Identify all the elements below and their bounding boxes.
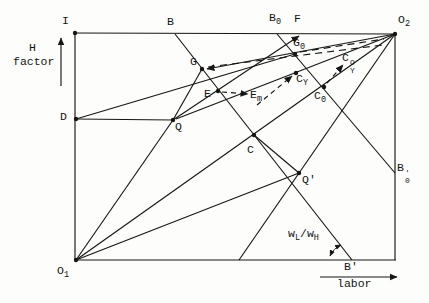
label-wLwH: wL/wH <box>288 228 319 244</box>
diagram-arcs <box>330 245 341 256</box>
label-Em: Em <box>250 89 262 105</box>
ray-O1-Q <box>76 120 173 260</box>
label-CY0: COY <box>342 52 355 74</box>
point-E <box>216 89 220 93</box>
seg-Q-G <box>173 69 202 120</box>
label-B0: B0 <box>269 12 281 28</box>
corner-top-left <box>73 31 77 35</box>
label-Q: Q <box>175 121 182 133</box>
label-O2: O2 <box>398 14 410 30</box>
point-G <box>200 67 204 71</box>
corner-O2 <box>393 32 397 36</box>
ray-O1-Qprime <box>76 173 299 260</box>
label-C: C <box>247 144 254 156</box>
diagram-canvas <box>0 0 429 303</box>
label-CY: CY <box>296 73 308 89</box>
label-C0: C0 <box>314 90 326 106</box>
label-G: G <box>190 56 197 68</box>
seg-C-Qprime <box>254 135 299 173</box>
label-Bprime: B' <box>344 261 358 273</box>
line-O2-Qprime <box>239 34 395 260</box>
label-F: F <box>294 13 301 25</box>
dash-C0-CY0 <box>327 65 343 83</box>
label-D: D <box>60 111 67 123</box>
point-Qprime <box>297 171 301 175</box>
label-O1: O1 <box>57 265 69 281</box>
seg-D-G0 <box>76 54 295 119</box>
label-factor: factor <box>13 56 54 68</box>
label-B: B <box>167 16 174 28</box>
corner-O1 <box>74 258 78 262</box>
label-H: H <box>29 42 36 54</box>
label-B0prime: B'0 <box>397 162 410 184</box>
label-labor: labor <box>337 278 372 290</box>
label-E: E <box>204 88 211 100</box>
label-G0: G0 <box>293 37 305 53</box>
box-top <box>75 33 395 34</box>
label-Qprime: Q' <box>302 174 316 186</box>
edgeworth-box-figure: IHfactorBB0FO2GG0EEmCYC0COYCDQQ'B'0B'O1w… <box>0 0 429 303</box>
point-D <box>74 117 78 121</box>
point-C0 <box>322 85 326 89</box>
angle-arc-wage-ratio <box>330 245 341 256</box>
label-I: I <box>62 15 69 27</box>
point-C <box>252 133 256 137</box>
seg-D-Q <box>76 119 173 120</box>
